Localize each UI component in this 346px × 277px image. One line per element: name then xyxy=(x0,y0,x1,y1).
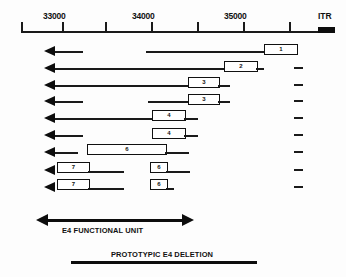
row-end-dash xyxy=(294,134,303,136)
ruler-tick-34000 xyxy=(151,22,153,32)
transcript-row: 6 xyxy=(0,143,346,161)
exon-label: 1 xyxy=(279,46,282,52)
exon-box: 4 xyxy=(152,128,186,139)
exon-label: 4 xyxy=(167,130,170,136)
transcript-arrow-icon xyxy=(44,165,55,175)
transcript-line-main xyxy=(55,85,190,87)
transcript-arrow-icon xyxy=(44,96,55,106)
functional-unit-label: E4 FUNCTIONAL UNIT xyxy=(62,226,143,235)
transcript-arrow-icon xyxy=(44,130,55,140)
itr-block-icon xyxy=(318,27,335,33)
exon-label: 6 xyxy=(157,181,160,187)
transcript-row: 7 6 xyxy=(0,160,346,178)
row-end-dash xyxy=(294,117,303,119)
row-end-dash xyxy=(294,67,303,69)
transcript-arrow-icon xyxy=(44,147,55,157)
exon-box: 2 xyxy=(224,61,258,72)
exon-label: 7 xyxy=(72,164,75,170)
transcript-row: 4 xyxy=(0,109,346,127)
transcript-line-main xyxy=(55,152,78,154)
exon-label: 7 xyxy=(72,181,75,187)
ruler-tick-minor-1 xyxy=(105,22,107,32)
transcript-line-gap xyxy=(88,171,124,173)
exon-label: 6 xyxy=(157,164,160,170)
e4-transcript-map-figure: 33000 34000 35000 ITR 1 2 3 xyxy=(0,0,346,277)
row-end-dash xyxy=(294,186,303,188)
functional-unit-bar xyxy=(46,219,184,222)
exon-box: 6 xyxy=(87,144,167,155)
ruler-tick-33000 xyxy=(62,22,64,32)
transcript-line-main xyxy=(148,101,190,103)
exon-box: 3 xyxy=(188,77,220,88)
row-end-dash xyxy=(294,151,303,153)
exon-label: 6 xyxy=(125,146,128,152)
exon-box: 3 xyxy=(188,94,220,105)
transcript-arrow-icon xyxy=(44,46,55,56)
transcript-line-tail xyxy=(218,85,230,87)
functional-unit-left-arrow-icon xyxy=(36,214,48,226)
exon-label: 3 xyxy=(202,79,205,85)
ruler-label-34000: 34000 xyxy=(132,11,155,21)
transcript-line-short xyxy=(55,51,83,53)
transcript-row: 3 xyxy=(0,92,346,110)
row-end-dash xyxy=(294,169,303,171)
exon-label: 4 xyxy=(167,112,170,118)
row-end-dash xyxy=(294,84,303,86)
itr-label: ITR xyxy=(318,11,332,21)
ruler-label-35000: 35000 xyxy=(224,11,247,21)
transcript-arrow-icon xyxy=(44,63,55,73)
ruler-tick-minor-3 xyxy=(289,22,291,32)
transcript-line-tail xyxy=(184,118,198,120)
transcript-line-tail xyxy=(166,188,174,190)
row-end-dash xyxy=(294,100,303,102)
deletion-label: PROTOTYPIC E4 DELETION xyxy=(111,250,213,259)
deletion-bar xyxy=(71,261,257,264)
transcript-line-tail xyxy=(166,171,190,173)
ruler-label-33000: 33000 xyxy=(43,11,66,21)
transcript-arrow-icon xyxy=(44,182,55,192)
ruler-tick-minor-2 xyxy=(197,22,199,32)
exon-box: 7 xyxy=(57,162,90,173)
transcript-row: 4 xyxy=(0,126,346,144)
transcript-row: 2 xyxy=(0,59,346,77)
exon-box: 7 xyxy=(57,179,90,190)
exon-box: 1 xyxy=(264,44,298,55)
transcript-arrow-icon xyxy=(44,113,55,123)
functional-unit-right-arrow-icon xyxy=(182,214,194,226)
transcript-arrow-icon xyxy=(44,80,55,90)
ruler-tick-35000 xyxy=(243,22,245,32)
transcript-row: 7 6 xyxy=(0,177,346,195)
transcript-line-tail xyxy=(165,152,189,154)
transcript-line-main xyxy=(55,118,153,120)
transcript-line-tail xyxy=(184,135,198,137)
transcript-line-tail xyxy=(218,101,230,103)
exon-label: 3 xyxy=(202,96,205,102)
transcript-line-short xyxy=(55,101,83,103)
transcript-line-gap xyxy=(88,188,124,190)
exon-box: 4 xyxy=(152,110,186,121)
transcript-line-short xyxy=(55,135,83,137)
transcript-line-tail xyxy=(256,68,264,70)
exon-label: 2 xyxy=(239,63,242,69)
ruler-tick-start xyxy=(21,22,23,32)
ruler-baseline xyxy=(21,31,327,33)
transcript-row: 1 xyxy=(0,42,346,60)
transcript-line-main xyxy=(55,68,230,70)
